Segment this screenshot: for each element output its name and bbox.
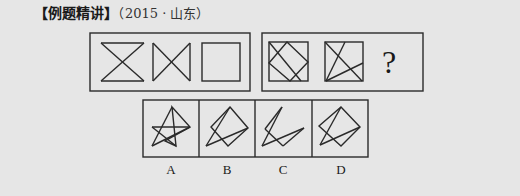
option-a-label[interactable]: A: [161, 162, 181, 178]
figure-1-hourglass: [101, 43, 144, 81]
figure-2-bowtie: [153, 43, 190, 81]
option-a-figure: [152, 107, 190, 146]
option-c-figure: [262, 107, 304, 146]
figure-4-square-inscribed-rectangle: [269, 42, 308, 81]
option-d-figure: [319, 107, 360, 146]
figure-5-square-fan-lines: [325, 42, 363, 81]
figure-reasoning-diagram: [0, 0, 520, 196]
sequence-group-1-frame: [90, 33, 250, 91]
option-c-label[interactable]: C: [273, 162, 293, 178]
unknown-figure-marker: ?: [382, 44, 396, 81]
option-b-label[interactable]: B: [217, 162, 237, 178]
figure-3-square: [202, 43, 240, 81]
option-d-label[interactable]: D: [331, 162, 351, 178]
option-b-figure: [206, 107, 248, 146]
